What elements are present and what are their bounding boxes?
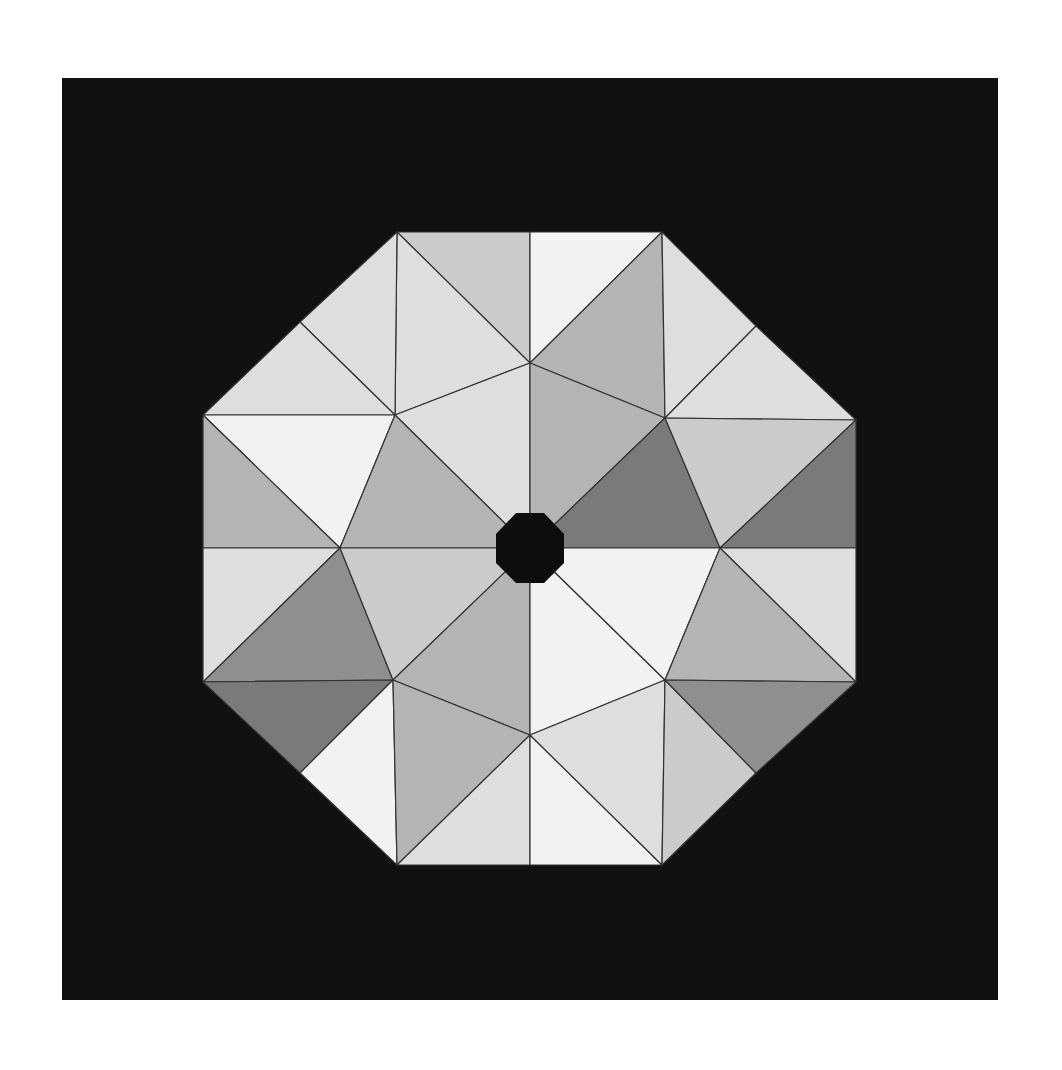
center-octagon-hole bbox=[496, 513, 564, 583]
octagon-diagram bbox=[0, 0, 1062, 1070]
